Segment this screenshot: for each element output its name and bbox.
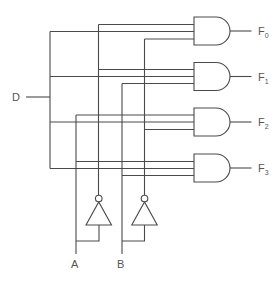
wire-a-to-inverter bbox=[76, 225, 99, 241]
inverter-b-bubble bbox=[141, 195, 148, 202]
input-label-d: D bbox=[12, 91, 20, 103]
wire-b-to-inverter bbox=[122, 225, 145, 241]
and-gate-f2-icon bbox=[194, 108, 230, 136]
output-label-f1: F1 bbox=[258, 71, 269, 85]
inverter-a-bubble bbox=[95, 195, 102, 202]
output-label-f3: F3 bbox=[258, 162, 269, 176]
and-gate-f3-icon bbox=[194, 154, 230, 182]
and-gate-f1-icon bbox=[194, 63, 230, 91]
output-label-f0: F0 bbox=[258, 25, 269, 39]
demultiplexer-diagram: D A B F0 F1 F2 F3 bbox=[0, 0, 280, 286]
inverter-a-icon bbox=[86, 202, 112, 225]
input-label-b: B bbox=[117, 258, 124, 270]
and-gate-f0-icon bbox=[194, 17, 230, 45]
input-label-a: A bbox=[71, 258, 79, 270]
output-label-f2: F2 bbox=[258, 116, 269, 130]
inverter-b-icon bbox=[132, 202, 158, 225]
